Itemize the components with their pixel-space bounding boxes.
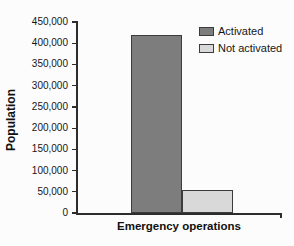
bar-not-activated <box>182 190 233 213</box>
y-tick-mark <box>72 85 77 86</box>
bar-chart-figure: { "chart_data": { "type": "bar", "title"… <box>0 0 294 246</box>
y-tick-label: 0 <box>0 207 68 219</box>
y-tick-mark <box>72 191 77 192</box>
y-tick-mark <box>72 170 77 171</box>
y-tick-label: 400,000 <box>0 37 68 49</box>
y-tick-label: 150,000 <box>0 143 68 155</box>
x-axis-title: Emergency operations <box>77 220 281 232</box>
legend-swatch-icon <box>199 44 214 53</box>
y-axis-line <box>76 21 78 214</box>
legend-label: Not activated <box>218 42 282 54</box>
y-tick-label: 50,000 <box>0 186 68 198</box>
bar-activated <box>131 35 182 213</box>
chart-area: Population Emergency operations Activate… <box>0 0 294 246</box>
legend-item-activated: Activated <box>199 25 282 37</box>
x-axis-end-tick <box>280 213 282 218</box>
y-tick-mark <box>72 128 77 129</box>
legend-item-not-activated: Not activated <box>199 42 282 54</box>
legend-swatch-icon <box>199 27 214 36</box>
y-tick-label: 300,000 <box>0 80 68 92</box>
y-tick-label: 350,000 <box>0 58 68 70</box>
y-tick-mark <box>72 212 77 213</box>
y-tick-mark <box>72 43 77 44</box>
y-tick-mark <box>72 149 77 150</box>
y-tick-mark <box>72 106 77 107</box>
y-tick-label: 100,000 <box>0 165 68 177</box>
y-axis-title: Population <box>4 89 18 151</box>
x-axis-line <box>76 213 281 215</box>
y-tick-mark <box>72 64 77 65</box>
y-tick-label: 450,000 <box>0 16 68 28</box>
legend-label: Activated <box>218 25 263 37</box>
y-tick-mark <box>72 21 77 22</box>
y-tick-label: 200,000 <box>0 122 68 134</box>
legend: ActivatedNot activated <box>199 25 282 59</box>
y-tick-label: 250,000 <box>0 101 68 113</box>
